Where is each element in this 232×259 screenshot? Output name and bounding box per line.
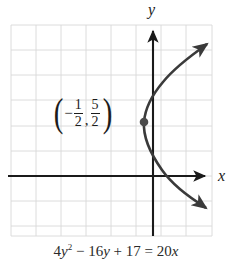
- equation-minus-variable: y: [103, 243, 110, 259]
- x-fraction-numerator: 1: [74, 98, 83, 112]
- equation-plus-term: + 17: [114, 243, 141, 259]
- y-fraction-denominator: 2: [91, 115, 100, 129]
- equation-rhs-coefficient: 20: [157, 243, 172, 259]
- vertex-point-marker: [140, 118, 149, 127]
- close-paren: ): [102, 97, 112, 130]
- x-fraction-denominator: 2: [74, 115, 83, 129]
- x-coordinate-fraction: 1 2: [74, 98, 83, 130]
- parabola-figure: y x ( − 1 2 , 5 2 ) 4y2 − 16y + 17 = 20x: [0, 0, 232, 259]
- equation-exponent: 2: [68, 243, 73, 252]
- vertex-coordinate-label: ( − 1 2 , 5 2 ): [52, 97, 114, 130]
- y-fraction-numerator: 5: [91, 98, 100, 112]
- x-axis-label: x: [218, 168, 225, 184]
- y-coordinate-fraction: 5 2: [91, 98, 100, 130]
- equation-caption: 4y2 − 16y + 17 = 20x: [0, 243, 232, 259]
- equation-rhs-variable: x: [172, 243, 179, 259]
- equation-equals: =: [145, 243, 153, 259]
- coordinate-comma: ,: [85, 113, 89, 130]
- negative-sign: −: [64, 106, 72, 121]
- graph-canvas: [0, 0, 232, 259]
- y-axis-label: y: [148, 2, 155, 18]
- equation-lhs-coefficient: 4: [54, 243, 62, 259]
- equation-lhs-variable: y: [61, 243, 68, 259]
- open-paren: (: [54, 97, 64, 130]
- equation-minus-term: − 16: [76, 243, 103, 259]
